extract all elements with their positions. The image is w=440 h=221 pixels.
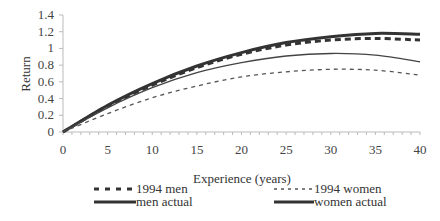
y-tick-label: 0 [48,124,55,139]
x-tick-label: 25 [280,142,293,157]
dotted-line-icon [272,185,314,193]
series-layer [63,33,420,132]
legend-item-women-actual: women actual [272,195,387,208]
legend-label: men actual [136,195,193,208]
x-axis: 0510152025303540 [60,132,427,157]
x-tick-label: 15 [190,142,203,157]
y-tick-label: 1.4 [38,7,55,22]
x-tick-label: 30 [324,142,337,157]
series-line-women-actual [63,53,420,132]
y-tick-label: 0.6 [38,74,55,89]
legend-label: women actual [314,195,387,208]
y-tick-label: 1.2 [38,24,54,39]
x-tick-label: 0 [60,142,67,157]
solid-line-icon [272,198,314,206]
y-axis: 00.20.40.60.811.21.4 [38,7,63,139]
x-tick-label: 20 [235,142,248,157]
x-tick-label: 40 [414,142,427,157]
series-line-men-actual [63,33,420,132]
y-tick-label: 1 [48,40,55,55]
y-axis-title: Return [18,56,33,92]
x-tick-label: 10 [146,142,159,157]
y-tick-label: 0.4 [38,91,55,106]
dashed-line-icon [92,185,136,193]
x-tick-label: 5 [104,142,111,157]
legend-item-men-actual: men actual [92,195,193,208]
y-tick-label: 0.2 [38,107,54,122]
thick-solid-line-icon [92,198,136,206]
x-tick-label: 35 [369,142,382,157]
y-tick-label: 0.8 [38,57,54,72]
